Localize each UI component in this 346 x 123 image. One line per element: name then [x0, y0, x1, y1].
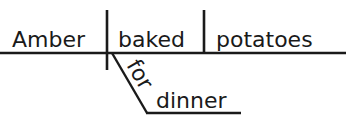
sentence-diagram-canvas: Amber baked potatoes for dinner: [0, 0, 346, 123]
subject-word: Amber: [12, 27, 86, 52]
verb-word: baked: [118, 27, 185, 52]
direct-object-word: potatoes: [216, 27, 313, 52]
preposition-object-word: dinner: [156, 88, 227, 113]
preposition-word: for: [122, 55, 159, 95]
sentence-diagram: Amber baked potatoes for dinner: [0, 0, 346, 123]
